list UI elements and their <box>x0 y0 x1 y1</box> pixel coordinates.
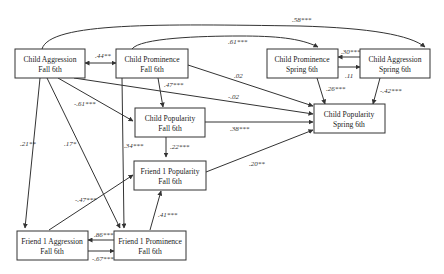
node-subtitle: Fall 6th <box>158 124 182 133</box>
node-subtitle: Spring 6th <box>286 65 318 74</box>
edge-label: .38*** <box>230 125 250 133</box>
edge-label: -.42*** <box>380 87 402 95</box>
node-title: Child Aggression <box>369 55 422 64</box>
edge-label: -.61*** <box>74 100 96 108</box>
node-subtitle: Fall 6th <box>138 247 162 256</box>
edge-ca-spring-to-cpop-spring <box>373 78 380 104</box>
edge-label: .21** <box>20 140 36 148</box>
edge-label: .20** <box>249 160 265 168</box>
node-friend1-aggression-fall: Friend 1 Aggression Fall 6th <box>17 231 88 260</box>
edge-label: -.02 <box>228 93 240 101</box>
node-title: Child Prominence <box>124 55 180 64</box>
edge-cp-fall-to-cp-spring <box>132 36 318 49</box>
node-child-popularity-fall: Child Popularity Fall 6th <box>135 108 205 137</box>
node-title: Child Popularity <box>145 114 196 123</box>
node-child-aggression-spring: Child Aggression Spring 6th <box>360 49 430 78</box>
node-title: Friend 1 Aggression <box>21 237 83 246</box>
node-friend1-popularity-fall: Friend 1 Popularity Fall 6th <box>134 161 206 190</box>
node-subtitle: Fall 6th <box>140 65 164 74</box>
edge-cp-fall-to-cpop-fall <box>158 78 163 107</box>
node-subtitle: Fall 6th <box>40 247 64 256</box>
edge-label: .41*** <box>158 211 178 219</box>
edge-label: .02 <box>234 72 243 80</box>
node-child-prominence-spring: Child Prominence Spring 6th <box>267 49 338 78</box>
edge-cp-fall-to-f1pr-fall <box>122 78 124 228</box>
edge-label: -.47*** <box>75 196 97 204</box>
node-title: Friend 1 Prominence <box>118 237 182 246</box>
node-title: Child Popularity <box>324 110 375 119</box>
node-title: Child Prominence <box>274 55 330 64</box>
node-child-popularity-spring: Child Popularity Spring 6th <box>314 104 385 133</box>
edge-label: .26*** <box>326 85 346 93</box>
edge-label: .22*** <box>170 143 190 151</box>
node-child-aggression-fall: Child Aggression Fall 6th <box>15 49 85 78</box>
node-title: Friend 1 Popularity <box>140 167 199 176</box>
edge-label: .30*** <box>341 48 361 56</box>
node-friend1-prominence-fall: Friend 1 Prominence Fall 6th <box>114 231 186 260</box>
node-subtitle: Fall 6th <box>38 65 62 74</box>
edge-label: .17* <box>64 140 77 148</box>
edge-ca-fall-to-f1a-fall <box>25 78 40 228</box>
edge-label: .58*** <box>292 16 312 24</box>
node-subtitle: Fall 6th <box>158 177 182 186</box>
edge-label: .34*** <box>124 142 144 150</box>
edge-label: .11 <box>345 72 353 80</box>
path-diagram: .58*** .61*** .44** .30*** .11 .02 -.02 … <box>0 0 444 274</box>
node-subtitle: Spring 6th <box>333 120 365 129</box>
edge-label: -.67*** <box>92 255 114 263</box>
node-child-prominence-fall: Child Prominence Fall 6th <box>116 49 188 78</box>
node-subtitle: Spring 6th <box>379 65 411 74</box>
edge-cp-spring-to-cpop-spring <box>317 78 325 104</box>
edge-label: .44** <box>95 52 111 60</box>
edge-label: .86*** <box>94 231 114 239</box>
edge-label: .47*** <box>164 81 184 89</box>
edge-label: .61*** <box>228 38 248 46</box>
node-title: Child Aggression <box>24 55 77 64</box>
